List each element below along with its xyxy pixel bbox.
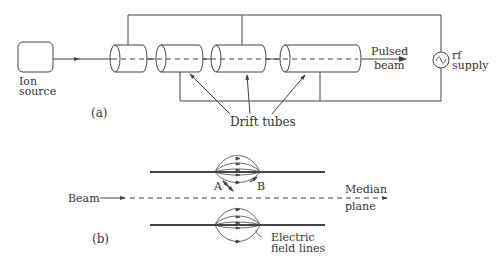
rf-supply-label-2: supply: [452, 59, 489, 72]
ion-source-box: [18, 42, 53, 72]
median-plane-label-2: plane: [345, 200, 376, 213]
linear-accelerator-diagram: Ion source (a) Drift tubes Pulsed beam r…: [0, 0, 499, 265]
panel-label-a: (a): [91, 106, 108, 120]
pulsed-beam-label-2: beam: [374, 59, 405, 72]
drift-tube-pointer-1: [190, 74, 230, 114]
drift-tubes-label: Drift tubes: [230, 115, 296, 129]
field-lines-label-2: field lines: [271, 242, 326, 255]
beam-label: Beam: [68, 192, 100, 205]
pulsed-beam-label-1: Pulsed: [371, 45, 408, 58]
point-b-label: B: [257, 180, 265, 193]
figure-b: [100, 156, 387, 244]
drift-tube-pointer-2: [247, 75, 250, 114]
median-plane-label-1: Median: [345, 183, 387, 196]
drift-tube-pointer-3: [272, 75, 305, 114]
point-a-label: A: [213, 180, 223, 193]
rf-wire-bottom: [180, 68, 441, 101]
panel-label-b: (b): [92, 232, 109, 246]
ion-source-label-2: source: [19, 85, 56, 98]
beam-arrow-icon: [74, 57, 80, 61]
